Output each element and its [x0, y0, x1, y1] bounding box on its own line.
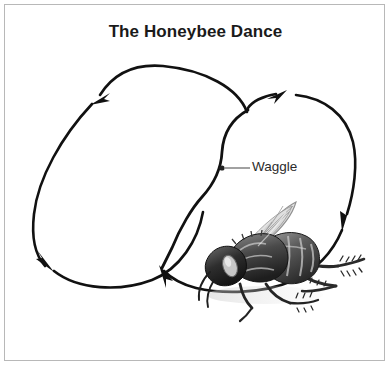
- left-loop-left-arc: [33, 104, 92, 266]
- right-loop-entry-arc: [248, 94, 276, 108]
- waggle-dance-diagram: [0, 0, 391, 367]
- honeybee-dance-figure: The Honeybee Dance: [0, 0, 391, 367]
- honeybee-illustration: [199, 202, 364, 321]
- waggle-leader: [219, 165, 250, 170]
- left-loop-arrowheads: [36, 93, 110, 272]
- waggle-leader-dot: [219, 165, 224, 170]
- bee-head: [205, 246, 246, 286]
- waggle-run: [162, 110, 248, 268]
- right-loop-top-arrow-icon: [267, 90, 287, 104]
- left-loop-lower-arc: [54, 212, 203, 287]
- left-loop-bottom-arrow-icon: [36, 250, 54, 272]
- waggle-run-path: [162, 110, 248, 268]
- right-loop-top-arc: [296, 95, 355, 214]
- waggle-label: Waggle: [252, 159, 297, 174]
- right-loop-side-arrow-icon: [340, 206, 350, 232]
- left-loop-upper-arc: [100, 66, 247, 112]
- bee-shadow: [207, 286, 323, 304]
